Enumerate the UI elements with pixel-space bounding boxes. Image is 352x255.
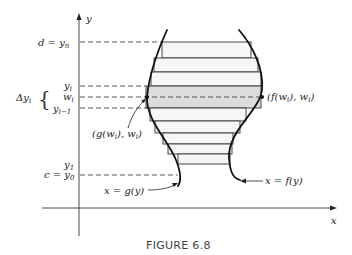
figure-caption: FIGURE 6.8 xyxy=(146,239,211,252)
strip xyxy=(163,133,233,144)
delta-brace: { xyxy=(38,87,51,111)
region-between-curves-figure: y x d = yn yi wi yi−1 Δyi { y1 c = y0 (g… xyxy=(0,0,352,255)
yi-1-label: yi−1 xyxy=(52,103,71,116)
leader-g-wi xyxy=(128,100,145,128)
delta-yi-label: Δyi xyxy=(15,92,31,105)
strip-n xyxy=(162,42,251,58)
y-axis-arrow-icon xyxy=(77,13,82,20)
d-label: d = yn xyxy=(38,37,70,50)
point-f-wi-label: (f(wi), wi) xyxy=(267,91,314,104)
curve-f-label: x = f(y) xyxy=(265,175,303,186)
strip xyxy=(155,121,240,133)
leader-f-curve-arrow-icon xyxy=(240,179,246,184)
strip-n-1 xyxy=(154,58,258,72)
leader-g-curve xyxy=(148,184,176,190)
strip xyxy=(151,72,261,86)
strip xyxy=(168,144,232,154)
leader-g-wi-arrow-icon xyxy=(141,98,146,103)
y-axis-label: y xyxy=(85,13,92,24)
point-g-wi-label: (g(wi), wi) xyxy=(92,128,142,141)
approximating-rectangles xyxy=(146,42,261,164)
strip xyxy=(150,108,246,121)
leader-g-curve-arrow-icon xyxy=(172,183,178,187)
x-axis-label: x xyxy=(331,215,337,226)
point-f-wi xyxy=(260,95,264,99)
wi-label: wi xyxy=(63,91,74,104)
strip-1 xyxy=(178,154,230,164)
x-axis-arrow-icon xyxy=(330,206,337,211)
curve-g-label: x = g(y) xyxy=(104,185,144,196)
